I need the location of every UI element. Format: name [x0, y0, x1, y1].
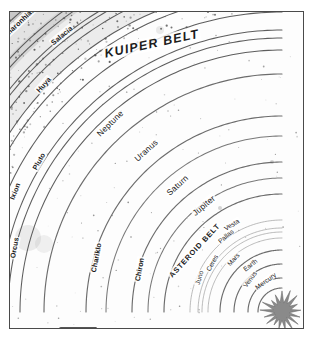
region-label-centaurs[interactable]: CENTAURS — [59, 327, 97, 329]
diagram-frame: VardaTeharonhiawakoVarunaSalaciaPraamziu… — [9, 11, 304, 329]
region-label-text: CENTAURS — [59, 327, 97, 329]
diagram-root: VardaTeharonhiawakoVarunaSalaciaPraamziu… — [0, 0, 311, 338]
orbit-plot: VardaTeharonhiawakoVarunaSalaciaPraamziu… — [10, 12, 303, 328]
